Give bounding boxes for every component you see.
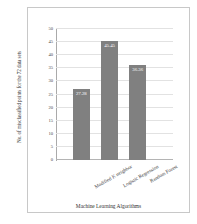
gridline: 50	[56, 28, 173, 29]
y-axis-tick-label: 50	[48, 26, 53, 31]
y-axis-tick-label: 45	[48, 39, 53, 44]
bar-value-label: 27.28	[73, 91, 90, 97]
bar-value-label: 45.45	[101, 43, 118, 49]
bar: 27.28	[73, 89, 90, 160]
y-axis-tick-label: 5	[51, 143, 53, 148]
y-axis-tick-label: 15	[48, 117, 53, 122]
x-axis-title: Machine Learning Algorithms	[27, 202, 190, 210]
y-axis-tick-label: 10	[48, 130, 53, 135]
y-axis-tick-label: 40	[48, 52, 53, 57]
y-axis-title: No. of misclassified points for the 72 d…	[14, 22, 25, 172]
y-axis-tick-label: 30	[48, 78, 53, 83]
bar: 36.36	[129, 65, 146, 160]
bar: 45.45	[101, 41, 118, 160]
chart-page: No. of misclassified points for the 72 d…	[0, 0, 197, 224]
y-axis-tick-label: 35	[48, 65, 53, 70]
plot-area: 05101520253035404550 27.2845.4536.36	[56, 29, 173, 160]
y-axis-tick-label: 0	[51, 157, 53, 162]
y-axis-tick-label: 20	[48, 104, 53, 109]
y-axis-tick-label: 25	[48, 91, 53, 96]
bar-value-label: 36.36	[129, 67, 146, 73]
